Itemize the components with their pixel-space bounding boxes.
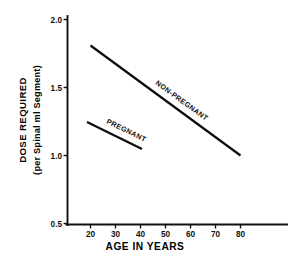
y-tick-label-1-0: 1.0 bbox=[51, 152, 63, 161]
x-tick-label-30: 30 bbox=[111, 230, 121, 239]
series-label-pregnant: PREGNANT bbox=[105, 117, 148, 144]
series-label-non-pregnant: NON-PREGNANT bbox=[154, 78, 210, 123]
x-tick-label-80: 80 bbox=[236, 230, 246, 239]
x-axis-title: AGE IN YEARS bbox=[106, 241, 185, 252]
y-tick-label-1-5: 1.5 bbox=[51, 84, 63, 93]
y-axis-title-sub: (per Spinal ml Segment) bbox=[32, 65, 42, 175]
y-tick-label-0-5: 0.5 bbox=[51, 220, 63, 229]
series-line-non-pregnant bbox=[91, 46, 241, 156]
x-tick-label-40: 40 bbox=[136, 230, 146, 239]
y-axis-title-main: DOSE REQUIRED bbox=[17, 77, 28, 163]
x-tick-label-50: 50 bbox=[161, 230, 171, 239]
y-tick-label-2-0: 2.0 bbox=[51, 16, 63, 25]
chart-figure: 2.0 1.5 1.0 0.5 20 30 40 50 60 70 80 NON… bbox=[0, 0, 293, 266]
x-tick-label-60: 60 bbox=[186, 230, 196, 239]
dose-required-line-chart: 2.0 1.5 1.0 0.5 20 30 40 50 60 70 80 NON… bbox=[0, 0, 293, 266]
x-tick-label-20: 20 bbox=[86, 230, 96, 239]
x-tick-label-70: 70 bbox=[211, 230, 221, 239]
